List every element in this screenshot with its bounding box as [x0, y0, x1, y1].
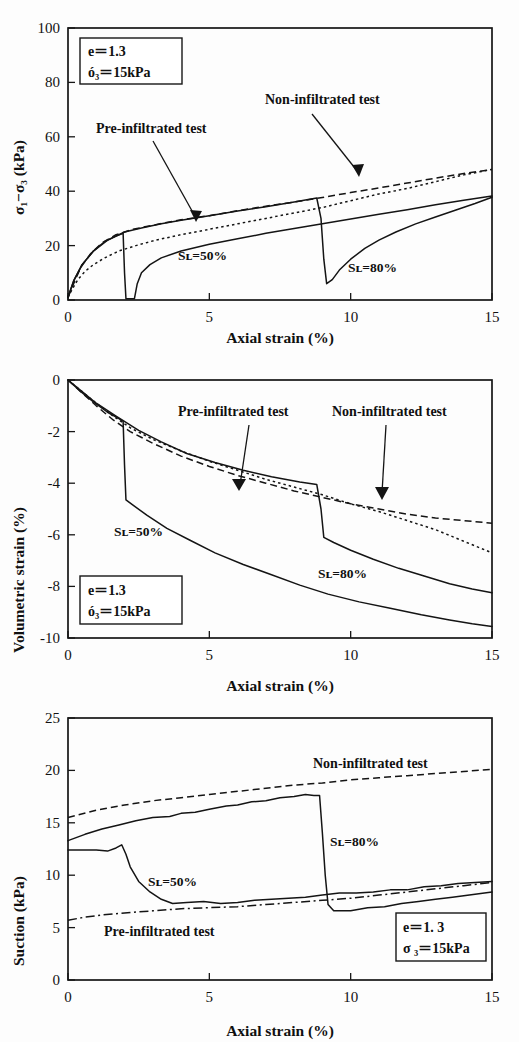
non-infiltrated-leader-2 [375, 425, 389, 500]
series-curve [68, 795, 492, 911]
x-tick-label: 15 [485, 989, 500, 1005]
series-curve [68, 169, 492, 297]
condition-line-e-3: e＝1. 3 [403, 920, 444, 935]
y-tick-label: 25 [45, 710, 60, 726]
condition-line-sigma3: ó₃＝15kPa [88, 65, 151, 80]
data-curves-1 [68, 169, 492, 298]
condition-box-1: e＝1.3 ó₃＝15kPa [80, 38, 182, 84]
condition-line-e: e＝1.3 [88, 44, 126, 59]
pre-infiltrated-leader-2 [232, 425, 249, 491]
x-tick-label: 5 [206, 647, 214, 663]
x-tick-label: 10 [343, 309, 358, 325]
condition-line-e-2: e＝1.3 [88, 583, 126, 598]
ylabel-text-1: σ₁−σ₃ (kPa) [10, 140, 28, 215]
series-curve [68, 380, 492, 523]
non-infiltrated-leader-1 [312, 114, 364, 177]
deviator-stress-svg: 020406080100051015 e＝1.3 ó₃＝15kPa Pre-in… [0, 0, 519, 348]
data-curves-3 [68, 769, 492, 920]
y-tick-label: -6 [48, 527, 61, 543]
x-tick-label: 10 [343, 647, 358, 663]
x-tick-label: 0 [64, 309, 72, 325]
y-tick-label: 15 [45, 815, 60, 831]
pre-infiltrated-label-1: Pre-infiltrated test [96, 121, 207, 136]
ylabel-text-3: Suction (kPa) [10, 876, 28, 966]
xlabel-2: Axial strain (%) [226, 677, 334, 695]
condition-line-sigma3-3: σ ₃＝15kPa [403, 941, 470, 956]
sl80-label-2: Sʟ=80% [318, 566, 367, 581]
x-tick-label: 10 [343, 989, 358, 1005]
y-tick-label: -10 [40, 630, 60, 646]
xlabel-3: Axial strain (%) [226, 1022, 334, 1040]
y-tick-label: 10 [45, 867, 60, 883]
pre-infiltrated-label-2: Pre-infiltrated test [178, 404, 289, 419]
x-tick-label: 5 [206, 309, 214, 325]
y-tick-label: 40 [45, 183, 60, 199]
y-tick-label: 0 [53, 372, 61, 388]
pre-infiltrated-label-3: Pre-infiltrated test [104, 924, 215, 939]
chart-panel-deviator-stress: 020406080100051015 e＝1.3 ó₃＝15kPa Pre-in… [0, 0, 519, 348]
x-tick-label: 5 [206, 989, 214, 1005]
x-tick-label: 0 [64, 647, 72, 663]
xlabel-1: Axial strain (%) [226, 329, 334, 347]
y-tick-label: 20 [45, 762, 60, 778]
y-tick-label: 80 [45, 74, 60, 90]
non-infiltrated-label-2: Non-infiltrated test [332, 404, 447, 419]
ylabel-1: σ₁−σ₃ (kPa) [10, 140, 28, 215]
series-curve [68, 169, 492, 297]
sl50-label-1: Sʟ=50% [178, 248, 227, 263]
ylabel-2: Volumetric strain (%) [10, 507, 28, 653]
volumetric-strain-svg: -10-8-6-4-20051015 Pre-infiltrated test … [0, 348, 519, 696]
y-tick-label: 20 [45, 238, 60, 254]
sl80-label-1: Sʟ=80% [348, 260, 397, 275]
pre-infiltrated-leader-1 [153, 141, 202, 222]
condition-box-2: e＝1.3 ó₃＝15kPa [80, 576, 182, 624]
x-tick-label: 0 [64, 989, 72, 1005]
y-tick-label: -2 [48, 424, 61, 440]
figure-page: 020406080100051015 e＝1.3 ó₃＝15kPa Pre-in… [0, 0, 519, 1042]
y-tick-label: 100 [38, 20, 61, 36]
condition-box-3: e＝1. 3 σ ₃＝15kPa [396, 913, 486, 961]
non-infiltrated-label-1: Non-infiltrated test [265, 92, 380, 107]
series-curve [68, 845, 492, 904]
condition-line-sigma3-2: ó₃＝15kPa [88, 604, 151, 619]
sl80-label-3: Sʟ=80% [330, 834, 379, 849]
y-tick-label: 5 [53, 920, 61, 936]
chart-panel-volumetric-strain: -10-8-6-4-20051015 Pre-infiltrated test … [0, 348, 519, 696]
x-tick-label: 15 [485, 309, 500, 325]
y-tick-label: 60 [45, 129, 60, 145]
y-tick-label: 0 [53, 972, 61, 988]
y-tick-label: 0 [53, 292, 61, 308]
y-tick-label: -4 [48, 475, 61, 491]
ylabel-text-2: Volumetric strain (%) [10, 507, 28, 653]
x-tick-label: 15 [485, 647, 500, 663]
suction-svg: 0510152025051015 Non-infiltrated test Sʟ… [0, 696, 519, 1042]
chart-panel-suction: 0510152025051015 Non-infiltrated test Sʟ… [0, 696, 519, 1042]
ylabel-3: Suction (kPa) [10, 876, 28, 966]
y-tick-label: -8 [48, 578, 61, 594]
non-infiltrated-label-3: Non-infiltrated test [313, 756, 428, 771]
sl50-label-2: Sʟ=50% [114, 524, 163, 539]
series-curve [68, 769, 492, 817]
sl50-label-3: Sʟ=50% [148, 874, 197, 889]
